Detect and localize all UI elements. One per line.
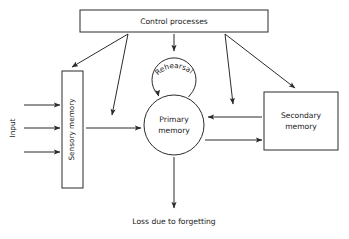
diagram-canvas: Control processes Sensory memory Input R… [0, 0, 349, 239]
primary-memory-circle [144, 95, 204, 155]
primary-memory-label-line2: memory [158, 126, 190, 135]
control-to-secondary-arrow [225, 34, 295, 88]
input-label: Input [8, 118, 17, 137]
rehearsal-loop-arrowhead [158, 93, 159, 96]
memory-model-diagram: Control processes Sensory memory Input R… [0, 0, 349, 239]
secondary-memory-box [264, 92, 338, 150]
control-to-retrieval-arrow [225, 34, 233, 104]
secondary-memory-label-line1: Secondary [281, 111, 322, 120]
sensory-memory-label: Sensory memory [67, 98, 76, 161]
control-to-sensory-arrow [72, 34, 128, 67]
control-processes-label: Control processes [140, 17, 208, 26]
secondary-memory-label-line2: memory [285, 122, 317, 131]
rehearsal-loop-tail [189, 95, 191, 97]
loss-due-to-forgetting-label: Loss due to forgetting [132, 217, 216, 226]
control-to-transfer-arrow [112, 34, 128, 115]
primary-memory-label-line1: Primary [159, 115, 189, 124]
